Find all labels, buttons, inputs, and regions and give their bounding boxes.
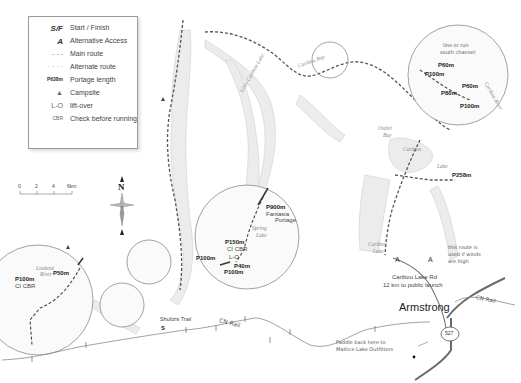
alt-access-symbol: A — [33, 37, 66, 46]
inset-northeast — [408, 25, 508, 125]
alt-note-line1: this route is — [448, 244, 478, 250]
portage-label: P100m — [224, 269, 243, 275]
liftover-label: L-O — [229, 254, 239, 260]
north-label: N — [118, 182, 125, 192]
alt-access-marker: A — [428, 256, 433, 263]
inset-small-1 — [127, 240, 171, 284]
cbr-symbol: CBR — [33, 115, 66, 121]
outlet-bay-label-2: Bay — [383, 132, 392, 138]
portage-label: P80m — [441, 90, 457, 96]
main-route-symbol: - - - — [33, 50, 66, 57]
legend-label: Alternate route — [70, 63, 116, 70]
legend-label: Check before running — [70, 115, 137, 122]
inset-west — [0, 245, 93, 355]
road-label-line1: Caribou Lake Rd — [392, 274, 437, 280]
scale-tick-2: 2 — [35, 183, 38, 189]
legend-label: Start / Finish — [70, 24, 109, 31]
portage-label: P258m — [452, 172, 471, 178]
road-label-line2: 12 km to public launch — [383, 282, 443, 288]
caribou-lake-upper-label-2: Lake — [437, 163, 448, 169]
caribou-lake-lower-label: Caribou — [368, 241, 386, 247]
outfitters-line1: Paddle back here to — [336, 339, 386, 345]
portage-label: P100m — [460, 103, 479, 109]
start-marker: S — [161, 325, 165, 331]
alt-note-line3: are high — [448, 258, 469, 264]
legend-row-cbr: CBR Check before running — [29, 115, 137, 127]
legend-row-alt-route: · · · · Alternate route — [29, 63, 137, 75]
caribou-lake-road — [393, 258, 446, 330]
lookout-river-label-2: River — [40, 271, 52, 277]
caribou-lake-lower-label-2: Lake — [373, 248, 384, 254]
inset-small-2 — [100, 283, 144, 327]
ne-note-line2: south channel — [440, 49, 475, 55]
scale-bar — [20, 191, 72, 194]
legend-row-portage: P638m Portage length — [29, 76, 137, 88]
alt-note-line2: used if winds — [448, 251, 481, 257]
start-finish-symbol: S/F — [33, 24, 66, 33]
portage-symbol: P638m — [33, 76, 66, 82]
ne-note-line1: line or run — [443, 42, 469, 48]
portage-label: P50m — [53, 270, 69, 276]
portage-label: P100m — [425, 71, 444, 77]
campsite-icon: ▲ — [33, 89, 66, 96]
spring-lake-label-1: Spring — [252, 225, 267, 231]
alt-access-marker: A — [395, 256, 400, 263]
portage-label: P60m — [462, 83, 478, 89]
fantasia-label-2: Portage — [275, 217, 296, 223]
legend-label: Main route — [70, 50, 103, 57]
legend-row-start-finish: S/F Start / Finish — [29, 24, 137, 36]
portage-label: P100m — [15, 276, 34, 282]
outfitters-line2: Mattice Lake Outfitters — [336, 346, 393, 352]
scale-tick-4: 4 — [52, 183, 55, 189]
outlet-bay-label-1: Outlet — [378, 125, 392, 131]
shultzis-trail-label: Shultzis Trail — [160, 316, 191, 322]
legend-label: Campsite — [70, 89, 100, 96]
legend-row-alt-access: A Alternative Access — [29, 37, 137, 49]
caribou-lake-upper-label: Caribou — [403, 146, 421, 152]
legend-row-campsite: ▲ Campsite — [29, 89, 137, 101]
scale-tick-6km: 6km — [67, 183, 76, 189]
spring-lake-label-2: Lake — [256, 232, 267, 238]
legend-label: Portage length — [70, 76, 116, 83]
highway-527 — [415, 278, 505, 380]
portage-label: P60m — [438, 62, 454, 68]
legend-label: Alternative Access — [70, 37, 127, 44]
liftover-symbol: L-O — [33, 102, 66, 109]
portage-label: P900m — [266, 204, 285, 210]
inset-central — [195, 185, 299, 289]
map-legend: S/F Start / Finish A Alternative Access … — [28, 16, 138, 149]
cbr-label: CI CBR — [15, 283, 35, 289]
portage-label: P100m — [196, 255, 215, 261]
town-armstrong: Armstrong — [399, 301, 450, 313]
portage-label: P150m — [225, 239, 244, 245]
legend-row-main-route: - - - Main route — [29, 50, 137, 62]
legend-label: lift-over — [70, 102, 93, 109]
cbr-label: CI CBR — [227, 246, 247, 252]
scale-tick-0: 0 — [18, 183, 21, 189]
alt-route-symbol: · · · · — [33, 63, 66, 70]
legend-row-liftover: L-O lift-over — [29, 102, 137, 114]
highway-527-label: 527 — [445, 330, 453, 336]
